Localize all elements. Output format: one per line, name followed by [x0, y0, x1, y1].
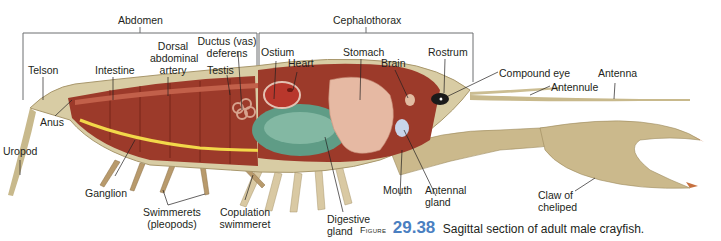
label-line: deferens	[197, 47, 257, 59]
label-ductus-deferens: Ductus (vas) deferens	[197, 35, 257, 59]
label-brain: Brain	[381, 57, 406, 69]
label-line: abdominal	[150, 52, 196, 64]
label-line: swimmeret	[215, 218, 275, 230]
label-intestine: Intestine	[95, 64, 135, 76]
label-antenna: Antenna	[598, 67, 637, 79]
label-uropod: Uropod	[3, 145, 37, 157]
label-line: Swimmerets	[142, 206, 202, 218]
figure-number: 29.38	[393, 218, 436, 237]
label-anus: Anus	[40, 116, 64, 128]
heart-shape	[264, 82, 300, 108]
label-line: Copulation	[215, 206, 275, 218]
label-heart: Heart	[288, 57, 314, 69]
cheliped-shape	[390, 121, 704, 188]
label-mouth: Mouth	[383, 184, 412, 196]
label-line: artery	[150, 64, 196, 76]
label-antennule: Antennule	[551, 81, 598, 93]
label-line: (pleopods)	[142, 218, 202, 230]
label-copulation-swimmeret: Copulation swimmeret	[215, 206, 275, 230]
label-rostrum: Rostrum	[428, 46, 468, 58]
label-line: Antennal	[425, 184, 466, 196]
label-stomach: Stomach	[343, 46, 384, 58]
label-dorsal-abdominal-artery: Dorsal abdominal artery	[150, 40, 196, 76]
label-testis: Testis	[207, 64, 234, 76]
brain-shape	[405, 94, 415, 106]
region-abdomen-label: Abdomen	[118, 14, 163, 26]
label-line: gland	[425, 196, 466, 208]
crayfish-figure: Abdomen Cephalothorax Telson Intestine D…	[0, 0, 721, 241]
label-antennal-gland: Antennal gland	[425, 184, 466, 208]
label-compound-eye: Compound eye	[499, 67, 570, 79]
crayfish-illustration	[0, 0, 721, 241]
label-line: cheliped	[538, 201, 577, 213]
figure-title: Sagittal section of adult male crayfish.	[443, 222, 644, 236]
label-swimmerets: Swimmerets (pleopods)	[142, 206, 202, 230]
label-claw-of-cheliped: Claw of cheliped	[538, 189, 577, 213]
figure-caption: Figure 29.38 Sagittal section of adult m…	[360, 218, 644, 238]
label-line: Claw of	[538, 189, 577, 201]
antennal-gland-shape	[395, 119, 409, 137]
figure-word: Figure	[360, 225, 386, 235]
label-ganglion: Ganglion	[85, 187, 127, 199]
label-line: Ductus (vas)	[197, 35, 257, 47]
label-line: Dorsal	[150, 40, 196, 52]
region-cephalothorax-label: Cephalothorax	[333, 14, 401, 26]
label-telson: Telson	[28, 64, 58, 76]
